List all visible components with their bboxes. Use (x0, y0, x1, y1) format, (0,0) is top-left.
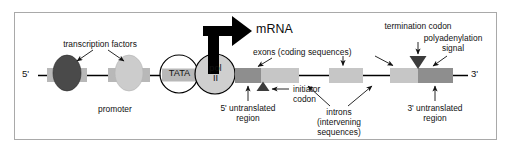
arrow-exon-1 (258, 58, 272, 67)
five-prime-utr-block (235, 68, 261, 83)
mrna-label: mRNA (256, 24, 293, 34)
arrow-exon-3 (375, 56, 393, 66)
polyadenylation-signal-label-line2: signal (411, 43, 495, 53)
three-prime-utr-label-line2: region (387, 113, 483, 123)
exon-1-block (261, 68, 299, 83)
five-prime-label: 5' (22, 69, 29, 79)
arrow-polyadenylation-signal (433, 56, 447, 66)
transcription-factors-label: transcription factors (40, 39, 160, 49)
three-prime-utr-label-line1: 3' untranslated (387, 103, 483, 113)
transcription-factor-dark-oval (53, 55, 81, 91)
introns-label-line3: sequences) (300, 127, 378, 137)
arrow-intron-2 (348, 86, 372, 106)
figure-canvas: 5' 3' transcription factors promoter TAT… (0, 0, 515, 167)
three-prime-label: 3' (471, 69, 478, 79)
termination-codon-label: termination codon (363, 21, 473, 31)
tata-label: TATA (159, 69, 200, 79)
termination-codon-marker (410, 56, 427, 69)
five-prime-utr-label-line1: 5' untranslated (199, 103, 297, 113)
exon-3-block (390, 68, 418, 83)
arrow-tf-left (77, 50, 93, 61)
three-prime-utr-block (418, 68, 453, 83)
promoter-label: promoter (70, 104, 160, 114)
arrow-tf-right (108, 50, 124, 61)
introns-label-line2: (intervening (300, 117, 378, 127)
initiator-codon-label-line1: initiator (293, 84, 320, 94)
exon-2-block (329, 68, 363, 83)
polyadenylation-signal-label-line1: polyadenylation (411, 33, 495, 43)
five-prime-utr-label-line2: region (199, 113, 297, 123)
transcription-factor-light-oval (115, 55, 143, 91)
exons-label: exons (coding sequences) (253, 47, 352, 57)
introns-label-line1: introns (300, 107, 378, 117)
pol-ii-label-line2: II (198, 74, 233, 84)
